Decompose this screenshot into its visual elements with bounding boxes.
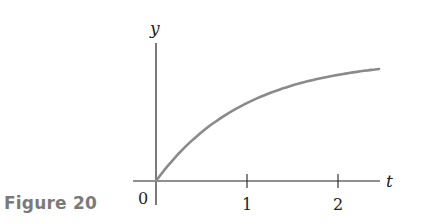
x-axis-label: t — [386, 171, 393, 191]
y-axis-label: y — [149, 18, 160, 38]
chart-plot: y t 0 1 2 — [0, 0, 423, 224]
data-curve — [156, 69, 379, 181]
x-tick-label-1: 1 — [242, 195, 252, 214]
origin-label: 0 — [138, 189, 148, 208]
x-tick-label-2: 2 — [333, 195, 343, 214]
